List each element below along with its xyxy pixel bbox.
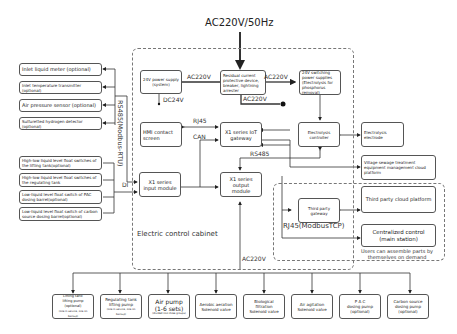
output-module-text: X1 series output module <box>223 176 259 194</box>
float-switch-text: High-low liquid level float switches of … <box>22 175 99 185</box>
output-pac-pump: P A Cdosing pump(optional) <box>339 294 381 319</box>
power-supply-system-text: 24V power supply (system) <box>143 77 179 87</box>
sensor-text: Air pressure sensor (optional) <box>22 103 99 108</box>
float-switch-pac-barrel: Low-liquid level float switch of PAC dos… <box>19 190 102 204</box>
input-module-text: X1 series input module <box>142 179 178 191</box>
output-subtitle: (1-6 sets) <box>155 305 184 312</box>
ac220v-left-label: AC220V <box>187 73 211 80</box>
can-label: CAN <box>193 133 206 140</box>
sensor-inlet-temperature: Inlet temperature transmitter (optional) <box>19 81 102 94</box>
third-party-cloud-text: Third party cloud platform <box>366 197 432 202</box>
cloud-platform-text: Village sewage treatment equipment manag… <box>364 160 433 175</box>
cloud-platform: Village sewage treatment equipment manag… <box>361 155 436 180</box>
main-power-title: AC220V/50Hz <box>205 17 273 28</box>
output-carbon-pump: Carbon sourcedosing pump(optional) <box>387 294 429 319</box>
output-title: Air pump <box>155 298 182 305</box>
output-subtitle: Solenoid valve <box>297 307 326 312</box>
cabinet-label: Electric control cabinet <box>137 230 218 238</box>
float-switch-text: High-low liquid level float switches of … <box>22 158 99 168</box>
rs485-label: RS485 <box>250 150 269 157</box>
rcd-text: Residual current protective device, brea… <box>223 73 263 93</box>
switching-supply-text: 24V switching power supplies (Electrolys… <box>302 70 338 95</box>
output-agitation-valve: Air agitationSolenoid valve <box>291 294 333 319</box>
output-aerobic-valve: Aerobic aerationSolenoid valve <box>195 294 237 319</box>
output-note: (one in service, one on backup) <box>55 309 91 319</box>
output-note: (optional) <box>350 309 369 314</box>
output-subtitle: lifting pump (optional) <box>55 299 91 309</box>
output-subtitle: Solenoid valve <box>201 307 230 312</box>
sensor-h2s-detector: Sulfuretted hydrogen detector (optional) <box>19 117 102 130</box>
input-module: X1 series input module <box>139 172 181 197</box>
output-lifting-pump: Lifting tanklifting pump (optional)(one … <box>52 294 94 319</box>
third-party-cloud: Third party cloud platform <box>361 186 436 213</box>
sensor-text: Sulfuretted hydrogen detector (optional) <box>22 119 99 129</box>
dc24v-label: DC24V <box>163 96 184 103</box>
iot-gateway: X1 series IoT gateway <box>220 122 262 147</box>
ac220v-main-label: AC220V <box>242 255 266 262</box>
electrode-text: Electrolysis electrode <box>364 130 401 140</box>
ac220v-right-label: AC220V <box>264 73 288 80</box>
centralized-control-text: Centralized control (main station) <box>364 229 433 242</box>
centralized-control: Centralized control (main station) <box>361 224 436 247</box>
output-biofiltration-valve: Biological filtrationSolenoid valve <box>243 294 285 319</box>
rs485-modbus-rtu-label: RS485(Modbus-RTU) <box>116 100 124 167</box>
di-label: DI <box>122 181 128 188</box>
float-switch-regulating-tank: High-low liquid level float switches of … <box>19 173 102 187</box>
sensor-inlet-liquid-meter: Inlet liquid meter (optional) <box>19 63 102 76</box>
output-note: (one in service, one on backup) <box>103 307 139 317</box>
ac220v-bottom-label: AC220V <box>243 95 267 102</box>
output-note: (optional) <box>398 309 417 314</box>
float-switch-carbon-barrel: Low-liquid level float switch of carbon … <box>19 207 102 221</box>
electrolysis-electrode: Electrolysis electrode <box>361 122 404 147</box>
rj45-modbustcp-label: RJ45(ModbusTCP) <box>283 222 345 230</box>
rj45-label: RJ45 <box>193 117 207 124</box>
switching-power-supply: 24V switching power supplies (Electrolys… <box>299 70 341 95</box>
sensor-text: Inlet temperature transmitter (optional) <box>22 83 99 93</box>
electrolysis-controller-text: Electrolysis controller <box>301 130 337 140</box>
output-air-pump: Air pump(1-6 sets)(divided into three gr… <box>148 294 190 319</box>
electrolysis-controller: Electrolysis controller <box>298 122 340 147</box>
output-title: Biological filtration <box>246 299 282 309</box>
float-switch-text: Low-liquid level float switch of PAC dos… <box>22 192 99 202</box>
hmi-screen: HMI contact screen <box>140 122 182 147</box>
third-party-gateway: Third party gateway <box>298 198 340 223</box>
hmi-text: HMI contact screen <box>143 129 179 141</box>
power-supply-system: 24V power supply (system) <box>140 70 182 94</box>
output-module: X1 series output module <box>220 172 262 197</box>
float-switch-lifting-tank: High-low liquid level float switches of … <box>19 156 102 170</box>
output-subtitle: Solenoid valve <box>249 309 278 314</box>
rcd-breaker-box: Residual current protective device, brea… <box>220 70 266 95</box>
user-assembly-note: Users can assemble parts by themselves o… <box>357 248 437 260</box>
gateway-text: X1 series IoT gateway <box>223 129 259 141</box>
float-switch-text: Low-liquid level float switch of carbon … <box>22 209 99 219</box>
sensor-text: Inlet liquid meter (optional) <box>22 67 99 72</box>
sensor-air-pressure: Air pressure sensor (optional) <box>19 99 102 112</box>
third-party-gateway-text: Third party gateway <box>301 206 337 216</box>
output-regulating-pump: Regulating tanklifting pump(one in servi… <box>100 294 142 319</box>
output-note: (divided into three groups) <box>152 312 185 316</box>
